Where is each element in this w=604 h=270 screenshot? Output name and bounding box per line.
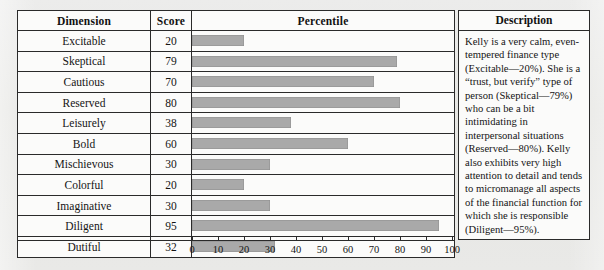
cell-score: 79 (151, 51, 192, 72)
cell-score: 20 (151, 175, 192, 196)
axis-tick-label: 50 (317, 244, 328, 255)
cell-dimension: Skeptical (18, 51, 151, 72)
bar-track (192, 155, 454, 175)
axis-tick-label: 60 (343, 244, 354, 255)
percentile-axis: 0102030405060708090100 (17, 240, 455, 268)
axis-tick (322, 236, 323, 240)
cell-dimension: Reserved (18, 92, 151, 113)
cell-percentile (192, 216, 455, 237)
axis-tick-label: 40 (291, 244, 302, 255)
bar-track (192, 31, 454, 51)
bar-track (192, 216, 454, 236)
axis-tick (270, 236, 271, 240)
axis-tick-label: 100 (444, 244, 460, 255)
cell-dimension: Colorful (18, 175, 151, 196)
percentile-bar (192, 138, 348, 149)
description-text: Kelly is a very calm, even-tempered fina… (459, 31, 589, 236)
axis-tick-label: 90 (421, 244, 432, 255)
cell-percentile (192, 31, 455, 52)
axis-tick-label: 0 (189, 244, 194, 255)
axis-tick-label: 70 (369, 244, 380, 255)
cell-score: 60 (151, 133, 192, 154)
cell-dimension: Excitable (18, 31, 151, 52)
percentile-bar (192, 159, 270, 170)
percentile-bar (192, 97, 400, 108)
table-row: Leisurely38 (18, 113, 455, 134)
axis-tick-label: 30 (265, 244, 276, 255)
percentile-bar (192, 76, 374, 87)
table-row: Bold60 (18, 133, 455, 154)
column-header-dimension: Dimension (18, 11, 151, 31)
bar-track (192, 72, 454, 92)
cell-percentile (192, 92, 455, 113)
axis-tick (374, 236, 375, 240)
table-body: Excitable20Skeptical79Cautious70Reserved… (18, 31, 455, 258)
cell-score: 95 (151, 216, 192, 237)
axis-line (17, 240, 455, 241)
cell-dimension: Mischievous (18, 154, 151, 175)
column-header-score: Score (151, 11, 192, 31)
cell-score: 80 (151, 92, 192, 113)
table-row: Cautious70 (18, 72, 455, 93)
column-header-percentile: Percentile (192, 11, 455, 31)
cell-score: 70 (151, 72, 192, 93)
percentile-bar (192, 220, 439, 231)
cell-percentile (192, 113, 455, 134)
percentile-bar (192, 179, 244, 190)
bar-track (192, 113, 454, 133)
percentile-bar (192, 35, 244, 46)
table-row: Mischievous30 (18, 154, 455, 175)
bar-track (192, 93, 454, 113)
cell-dimension: Leisurely (18, 113, 151, 134)
axis-tick (452, 236, 453, 240)
axis-tick-label: 80 (395, 244, 406, 255)
axis-tick (296, 236, 297, 240)
percentile-bar (192, 56, 397, 67)
table-header-row: Dimension Score Percentile (18, 11, 455, 31)
percentile-bar (192, 117, 291, 128)
bar-track (192, 175, 454, 195)
cell-dimension: Bold (18, 133, 151, 154)
table-row: Colorful20 (18, 175, 455, 196)
axis-tick (244, 236, 245, 240)
cell-score: 30 (151, 195, 192, 216)
table-row: Reserved80 (18, 92, 455, 113)
axis-tick (192, 236, 193, 240)
table-row: Diligent95 (18, 216, 455, 237)
description-header: Description (459, 11, 589, 31)
description-panel: Description Kelly is a very calm, even-t… (458, 10, 590, 240)
table-row: Imaginative30 (18, 195, 455, 216)
cell-score: 30 (151, 154, 192, 175)
axis-tick-label: 20 (239, 244, 250, 255)
axis-tick-label: 10 (213, 244, 224, 255)
percentile-table: Dimension Score Percentile Excitable20Sk… (17, 10, 455, 258)
cell-dimension: Imaginative (18, 195, 151, 216)
cell-score: 38 (151, 113, 192, 134)
cell-score: 20 (151, 31, 192, 52)
cell-percentile (192, 175, 455, 196)
axis-tick (348, 236, 349, 240)
table-row: Excitable20 (18, 31, 455, 52)
cell-percentile (192, 72, 455, 93)
table-row: Skeptical79 (18, 51, 455, 72)
axis-tick (218, 236, 219, 240)
axis-tick (426, 236, 427, 240)
percentile-bar (192, 200, 270, 211)
cell-percentile (192, 195, 455, 216)
bar-track (192, 196, 454, 216)
cell-percentile (192, 133, 455, 154)
cell-dimension: Diligent (18, 216, 151, 237)
cell-dimension: Cautious (18, 72, 151, 93)
axis-tick (400, 236, 401, 240)
bar-track (192, 52, 454, 72)
cell-percentile (192, 154, 455, 175)
bar-track (192, 134, 454, 154)
cell-percentile (192, 51, 455, 72)
